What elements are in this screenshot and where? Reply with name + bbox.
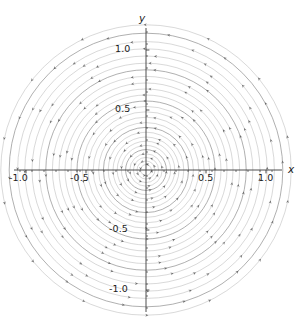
flow-arrowhead	[119, 182, 123, 186]
flow-arrowhead	[271, 220, 275, 224]
y-tick-label-neg-0-5: -0.5	[109, 224, 128, 234]
flow-arrowhead	[188, 289, 192, 293]
flow-arrowhead	[228, 126, 232, 130]
flow-arrowhead	[128, 213, 132, 217]
flow-arrowhead	[85, 274, 89, 278]
flow-arrowhead	[168, 245, 172, 249]
flow-arrowhead	[156, 174, 160, 178]
flow-arrowhead	[79, 262, 83, 266]
flow-arrowhead	[205, 80, 209, 84]
flow-arrowhead	[82, 299, 86, 303]
flow-arrowhead	[82, 64, 86, 68]
flow-arrowhead	[169, 115, 173, 119]
flow-arrowhead	[80, 207, 84, 211]
flow-arrowhead	[264, 101, 268, 105]
flow-arrowhead	[239, 135, 243, 139]
flow-arrowhead	[143, 174, 146, 177]
flow-arrowhead	[156, 142, 160, 146]
x-tick-label-1: 1.0	[258, 173, 273, 183]
y-tick-label-0-5: 0.5	[115, 104, 130, 114]
flow-arrowhead	[191, 48, 195, 52]
x-axis-label: x	[288, 164, 294, 175]
x-tick-label-0-5: 0.5	[198, 173, 213, 183]
flow-arrowhead	[172, 238, 176, 242]
flow-arrowhead	[184, 91, 188, 95]
flow-arrowhead	[152, 164, 156, 168]
flow-arrowhead	[104, 143, 108, 147]
flow-arrowhead	[72, 62, 76, 66]
flow-arrowhead	[134, 191, 138, 195]
flow-arrowhead	[101, 251, 105, 255]
flow-arrowhead	[206, 37, 210, 41]
flow-arrowhead	[209, 74, 213, 78]
flow-arrowhead	[92, 132, 96, 136]
flow-arrowhead	[203, 62, 207, 66]
flow-arrowhead	[60, 210, 64, 214]
flow-arrowhead	[150, 170, 153, 173]
flow-arrowhead	[24, 234, 28, 238]
flow-arrowhead	[150, 157, 154, 161]
y-tick-label-neg-1: -1.0	[109, 284, 128, 294]
flow-arrowhead	[31, 107, 35, 111]
flow-arrowhead	[30, 226, 34, 230]
flow-arrowhead	[72, 205, 76, 209]
flow-arrowhead	[41, 217, 45, 221]
flow-arrowhead	[196, 204, 200, 208]
flow-arrowhead	[139, 167, 142, 170]
flow-arrowhead	[193, 188, 197, 192]
flow-arrowhead	[169, 208, 173, 212]
flow-arrowhead	[80, 38, 84, 42]
flow-arrowhead	[107, 261, 111, 265]
flow-arrowhead	[118, 116, 122, 120]
flow-arrowhead	[210, 204, 214, 208]
flow-arrowhead	[152, 149, 156, 153]
flow-arrowhead	[113, 211, 117, 215]
flow-arrowhead	[110, 269, 114, 273]
flow-arrowhead	[165, 156, 169, 160]
flow-arrowhead	[286, 135, 290, 139]
flow-arrowhead	[187, 85, 191, 89]
flow-arrowhead	[99, 184, 103, 188]
flow-arrowhead	[222, 129, 226, 133]
flow-arrowhead	[50, 103, 54, 107]
flow-arrowhead	[108, 156, 112, 160]
flow-arrowhead	[159, 219, 163, 223]
flow-arrowhead	[18, 116, 22, 120]
plot-canvas	[0, 0, 307, 322]
flow-arrowhead	[3, 201, 7, 205]
flow-arrowhead	[113, 243, 117, 247]
flow-arrowhead	[248, 106, 252, 110]
flow-arrowhead	[250, 227, 254, 231]
flow-arrowhead	[131, 198, 135, 202]
flow-arrowhead	[212, 212, 216, 216]
stream-plot-figure: x y -1.0 -0.5 0.5 1.0 1.0 0.5 -0.5 -1.0	[0, 0, 307, 322]
flow-arrowhead	[190, 142, 194, 146]
flow-arrowhead	[243, 127, 247, 131]
flow-arrowhead	[146, 163, 149, 166]
x-tick-label-neg-0-5: -0.5	[70, 173, 89, 183]
flow-arrowhead	[157, 138, 161, 142]
flow-arrowhead	[180, 116, 184, 120]
flow-arrowhead	[208, 298, 212, 302]
flow-arrowhead	[140, 160, 144, 164]
flow-arrowhead	[180, 180, 184, 184]
flow-arrowhead	[269, 200, 273, 204]
flow-arrowhead	[139, 180, 143, 184]
flow-arrowhead	[70, 273, 74, 277]
flow-arrowhead	[38, 109, 42, 113]
axis-layer	[14, 28, 282, 312]
flow-arrowhead	[40, 230, 44, 234]
flow-arrowhead	[170, 272, 174, 276]
y-tick-label-1: 1.0	[115, 44, 130, 54]
flow-arrowhead	[49, 120, 53, 124]
flow-arrowhead	[247, 119, 251, 123]
flow-arrowhead	[95, 65, 99, 69]
flow-arrowhead	[133, 163, 137, 167]
flow-arrowhead	[136, 172, 140, 176]
flow-arrowhead	[148, 176, 152, 180]
flow-arrowhead	[97, 79, 101, 83]
x-tick-label-neg-1: -1.0	[9, 173, 28, 183]
flow-arrowhead	[269, 139, 273, 143]
flow-arrowhead	[193, 271, 197, 275]
flow-arrowhead	[57, 118, 61, 122]
